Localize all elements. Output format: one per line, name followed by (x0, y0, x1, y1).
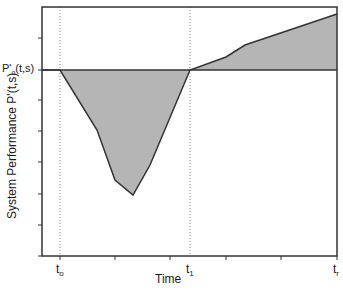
x-axis-label: Time (155, 272, 181, 286)
chart-plot (0, 0, 343, 292)
t0-sub: o (59, 269, 63, 278)
t0-tick-label: to (56, 262, 64, 278)
tr-sub: r (336, 269, 339, 278)
y-axis-label: System Performance P'(t,s) (5, 79, 19, 219)
t1-tick-label: t1 (186, 262, 194, 278)
performance-loss-area (60, 70, 190, 195)
tr-tick-label: tr (333, 262, 339, 278)
t1-sub: 1 (189, 269, 193, 278)
